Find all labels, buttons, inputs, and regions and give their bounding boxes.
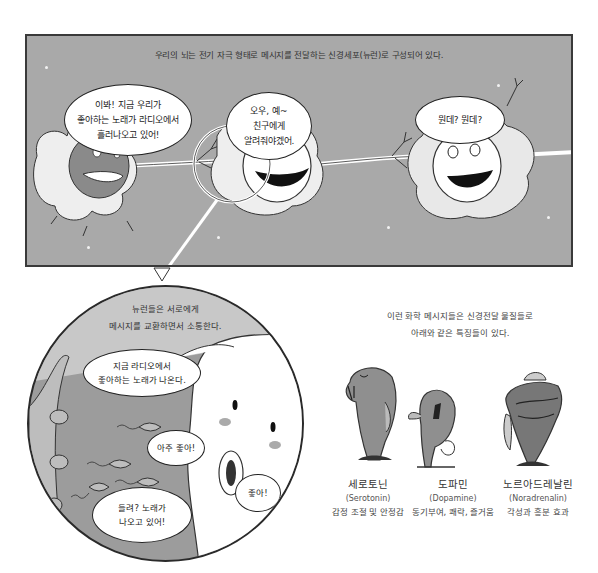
bubble-line: 뭔데? 뭔데? <box>438 113 482 128</box>
nt-description: 각성과 흥분 효과 <box>488 505 588 520</box>
neurotransmitter-noradrenalin: 노르아드레날린 (Noradrenalin) 각성과 흥분 효과 <box>488 477 588 520</box>
bubble-line: 알려줘야겠어. <box>244 134 295 149</box>
serotonin-fish-icon <box>340 362 400 472</box>
noradrenalin-fish-icon <box>500 370 570 470</box>
bubble-line: 이봐! 지금 우리가 <box>95 98 160 113</box>
bubble-line: 좋아하는 노래가 나온다. <box>98 373 186 387</box>
bubble-line: 좋아! <box>248 486 267 501</box>
bubble-line: 좋아하는 노래가 라디오에서 <box>77 113 179 128</box>
speech-bubble-hear: 들려? 노래가 나오고 있어! <box>92 487 192 543</box>
zoomed-synapse-panel: 뉴런들은 서로에게 메시지를 교환하면서 소통한다. 지금 라디오에서 좋아하는… <box>27 285 304 562</box>
dopamine-fish-icon <box>405 385 465 475</box>
speech-bubble-left: 이봐! 지금 우리가 좋아하는 노래가 라디오에서 흘러나오고 있어! <box>64 84 192 156</box>
speech-bubble-right: 뭔데? 뭔데? <box>415 96 505 144</box>
intro-line: 이런 화학 메시지들은 신경전달 물질들로 <box>350 308 570 325</box>
caption-line: 뉴런들은 서로에게 <box>29 301 302 318</box>
bubble-line: 지금 라디오에서 <box>113 359 172 373</box>
bubble-line: 들려? 노래가 <box>118 501 165 515</box>
intro-line: 아래와 같은 특징들이 있다. <box>350 325 570 342</box>
bubble-line: 오우, 예~ <box>250 104 287 119</box>
bubble-line: 나오고 있어! <box>119 515 165 529</box>
nt-name-ko: 노르아드레날린 <box>488 477 588 492</box>
bubble-line: 흘러나오고 있어! <box>97 128 159 143</box>
speech-bubble-radio: 지금 라디오에서 좋아하는 노래가 나온다. <box>83 349 201 397</box>
speech-bubble-very-good: 아주 좋아! <box>147 430 205 466</box>
top-comic-panel: 우리의 뇌는 전기 자극 형태로 메시지를 전달하는 신경세포(뉴런)로 구성되… <box>25 34 573 267</box>
arrow-down-icon <box>152 267 172 283</box>
bubble-line: 친구에게 <box>253 119 285 134</box>
bubble-line: 아주 좋아! <box>157 441 195 456</box>
speech-bubble-middle: 오우, 예~ 친구에게 알려줘야겠어. <box>226 92 312 160</box>
neurotransmitter-intro: 이런 화학 메시지들은 신경전달 물질들로 아래와 같은 특징들이 있다. <box>350 308 570 342</box>
caption-line: 메시지를 교환하면서 소통한다. <box>29 318 302 335</box>
nt-name-en: (Noradrenalin) <box>488 492 588 505</box>
zoom-panel-caption: 뉴런들은 서로에게 메시지를 교환하면서 소통한다. <box>29 301 302 335</box>
speech-bubble-good: 좋아! <box>235 474 281 512</box>
